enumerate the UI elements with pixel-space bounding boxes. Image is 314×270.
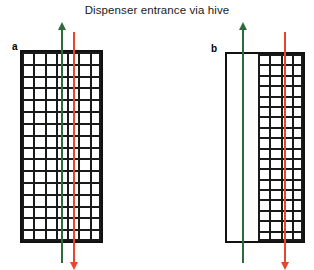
arrow-head — [281, 262, 289, 270]
arrow-head — [239, 22, 247, 30]
arrow-shaft — [73, 32, 76, 263]
panel-label-a: a — [12, 42, 18, 52]
grid-line-horizontal — [258, 231, 303, 233]
arrow-shaft — [61, 29, 64, 263]
grid-line-horizontal — [258, 199, 303, 201]
panel-label-b: b — [211, 44, 217, 54]
grid-line-horizontal — [258, 210, 303, 212]
arrow-head — [58, 22, 66, 30]
grid-line-horizontal — [258, 127, 303, 129]
grid-line-horizontal — [258, 189, 303, 191]
panel-b-grid — [258, 54, 303, 241]
grid-line-horizontal — [258, 96, 303, 98]
grid-line-horizontal — [258, 75, 303, 77]
grid-line-horizontal — [258, 179, 303, 181]
arrow-shaft — [284, 32, 287, 263]
grid-line-horizontal — [258, 106, 303, 108]
grid-line-horizontal — [258, 220, 303, 222]
grid-line-horizontal — [258, 158, 303, 160]
grid-line-horizontal — [258, 116, 303, 118]
arrow-head — [70, 262, 78, 270]
grid-line-horizontal — [258, 148, 303, 150]
grid-line-horizontal — [258, 168, 303, 170]
grid-line-horizontal — [258, 85, 303, 87]
figure-title: Dispenser entrance via hive — [0, 4, 314, 16]
figure-canvas: Dispenser entrance via hive a b — [0, 0, 314, 270]
grid-line-horizontal — [258, 64, 303, 66]
arrow-shaft — [242, 29, 245, 263]
grid-line-horizontal — [258, 137, 303, 139]
